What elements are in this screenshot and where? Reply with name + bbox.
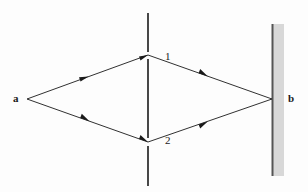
arrowhead-slit1-to-detector	[199, 69, 208, 76]
arrowhead-source-to-slit1	[79, 76, 89, 81]
arrowhead-slit2-to-detector	[199, 121, 208, 128]
screen-band	[272, 24, 284, 176]
diagram-canvas	[0, 0, 308, 192]
label-detector-b: b	[288, 93, 294, 104]
label-slit-2: 2	[165, 135, 171, 146]
label-source-a: a	[13, 93, 19, 104]
arrowhead-source-to-slit2	[80, 114, 89, 121]
arrowhead-entering-slit2	[139, 135, 148, 142]
arrowhead-entering-slit1	[139, 55, 148, 60]
double-slit-diagram: a b 1 2	[0, 0, 308, 192]
label-slit-1: 1	[165, 51, 171, 62]
